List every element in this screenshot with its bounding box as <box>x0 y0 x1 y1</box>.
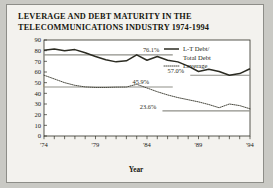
y-tick-label: 80 <box>34 47 41 54</box>
legend-label-line2: Total Debt <box>183 54 211 61</box>
x-tick-marks <box>44 136 250 139</box>
y-tick-label: 30 <box>34 100 41 107</box>
y-tick-labels: 0102030405060708090 <box>34 36 41 139</box>
chart-figure: LEVERAGE AND DEBT MATURITY IN THE TELECO… <box>6 4 264 183</box>
chart-svg: 0102030405060708090 '74'79'84'89'94 76.1… <box>18 36 256 154</box>
y-tick-label: 40 <box>34 90 41 97</box>
y-tick-label: 70 <box>34 58 41 65</box>
x-tick-label: '84 <box>143 141 151 148</box>
plot-area: Percentage 0102030405060708090 '74'79'84… <box>18 36 256 154</box>
y-tick-label: 10 <box>34 122 41 129</box>
annotation-label: 45.9% <box>133 78 150 85</box>
y-tick-label: 90 <box>34 36 41 43</box>
annotation-label: 23.6% <box>140 103 157 110</box>
x-tick-labels: '74'79'84'89'94 <box>40 141 254 148</box>
y-tick-label: 20 <box>34 111 41 118</box>
y-tick-label: 50 <box>34 79 41 86</box>
x-tick-label: '89 <box>195 141 203 148</box>
chart-title: LEVERAGE AND DEBT MATURITY IN THE TELECO… <box>18 12 248 33</box>
legend-label: L-T Debt/ <box>183 45 210 52</box>
x-tick-label: '79 <box>92 141 100 148</box>
annotation-label: 76.1% <box>143 46 160 53</box>
y-tick-label: 60 <box>34 68 41 75</box>
y-tick-label: 0 <box>38 132 42 139</box>
x-axis-label: Year <box>7 165 265 174</box>
x-tick-label: '74 <box>40 141 48 148</box>
legend-label: Leverage <box>183 62 208 69</box>
x-tick-label: '94 <box>246 141 254 148</box>
